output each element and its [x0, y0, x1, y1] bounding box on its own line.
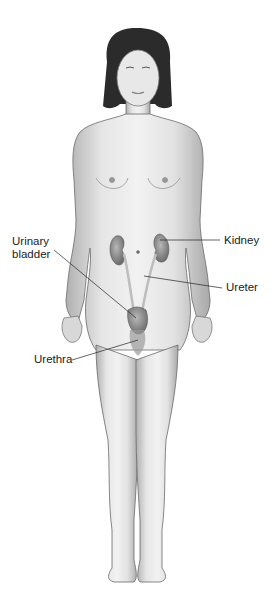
- label-urethra: Urethra: [34, 353, 72, 366]
- pubic-region: [130, 330, 146, 356]
- label-kidney: Kidney: [224, 234, 259, 247]
- anatomy-figure: [0, 0, 274, 590]
- label-urinary-bladder-line2: bladder: [12, 248, 50, 261]
- label-urinary-bladder-line1: Urinary: [12, 235, 50, 248]
- label-urinary-bladder: Urinary bladder: [12, 235, 50, 261]
- label-ureter: Ureter: [226, 281, 258, 294]
